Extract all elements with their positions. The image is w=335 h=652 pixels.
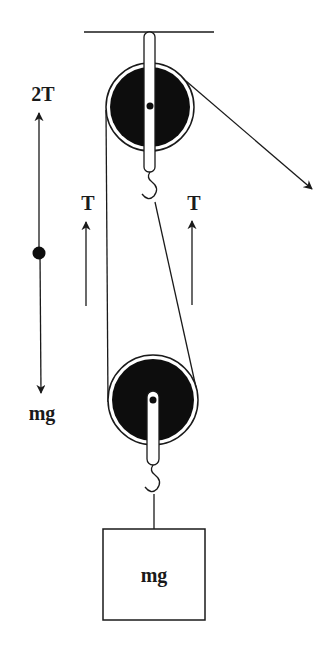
- tension-arrows: T T: [81, 192, 201, 306]
- bottom-pulley: [108, 355, 198, 529]
- tension-right-label: T: [187, 192, 201, 214]
- downward-force-arrow: [40, 253, 41, 393]
- pull-rope-arrow: [186, 81, 312, 189]
- body-point: [33, 247, 46, 260]
- bottom-hook-icon: [145, 465, 160, 492]
- top-pulley-axle: [147, 103, 154, 110]
- top-pulley-strap: [144, 32, 155, 172]
- downward-force-label: mg: [29, 402, 56, 425]
- free-body-diagram: 2T mg: [29, 83, 56, 425]
- pulley-diagram: mg 2T mg T T: [0, 0, 335, 652]
- upward-force-label: 2T: [31, 83, 55, 105]
- top-pulley: [106, 32, 194, 199]
- top-hook-icon: [142, 172, 157, 199]
- block-label: mg: [141, 564, 168, 587]
- tension-left-label: T: [81, 192, 95, 214]
- bottom-pulley-axle: [150, 397, 157, 404]
